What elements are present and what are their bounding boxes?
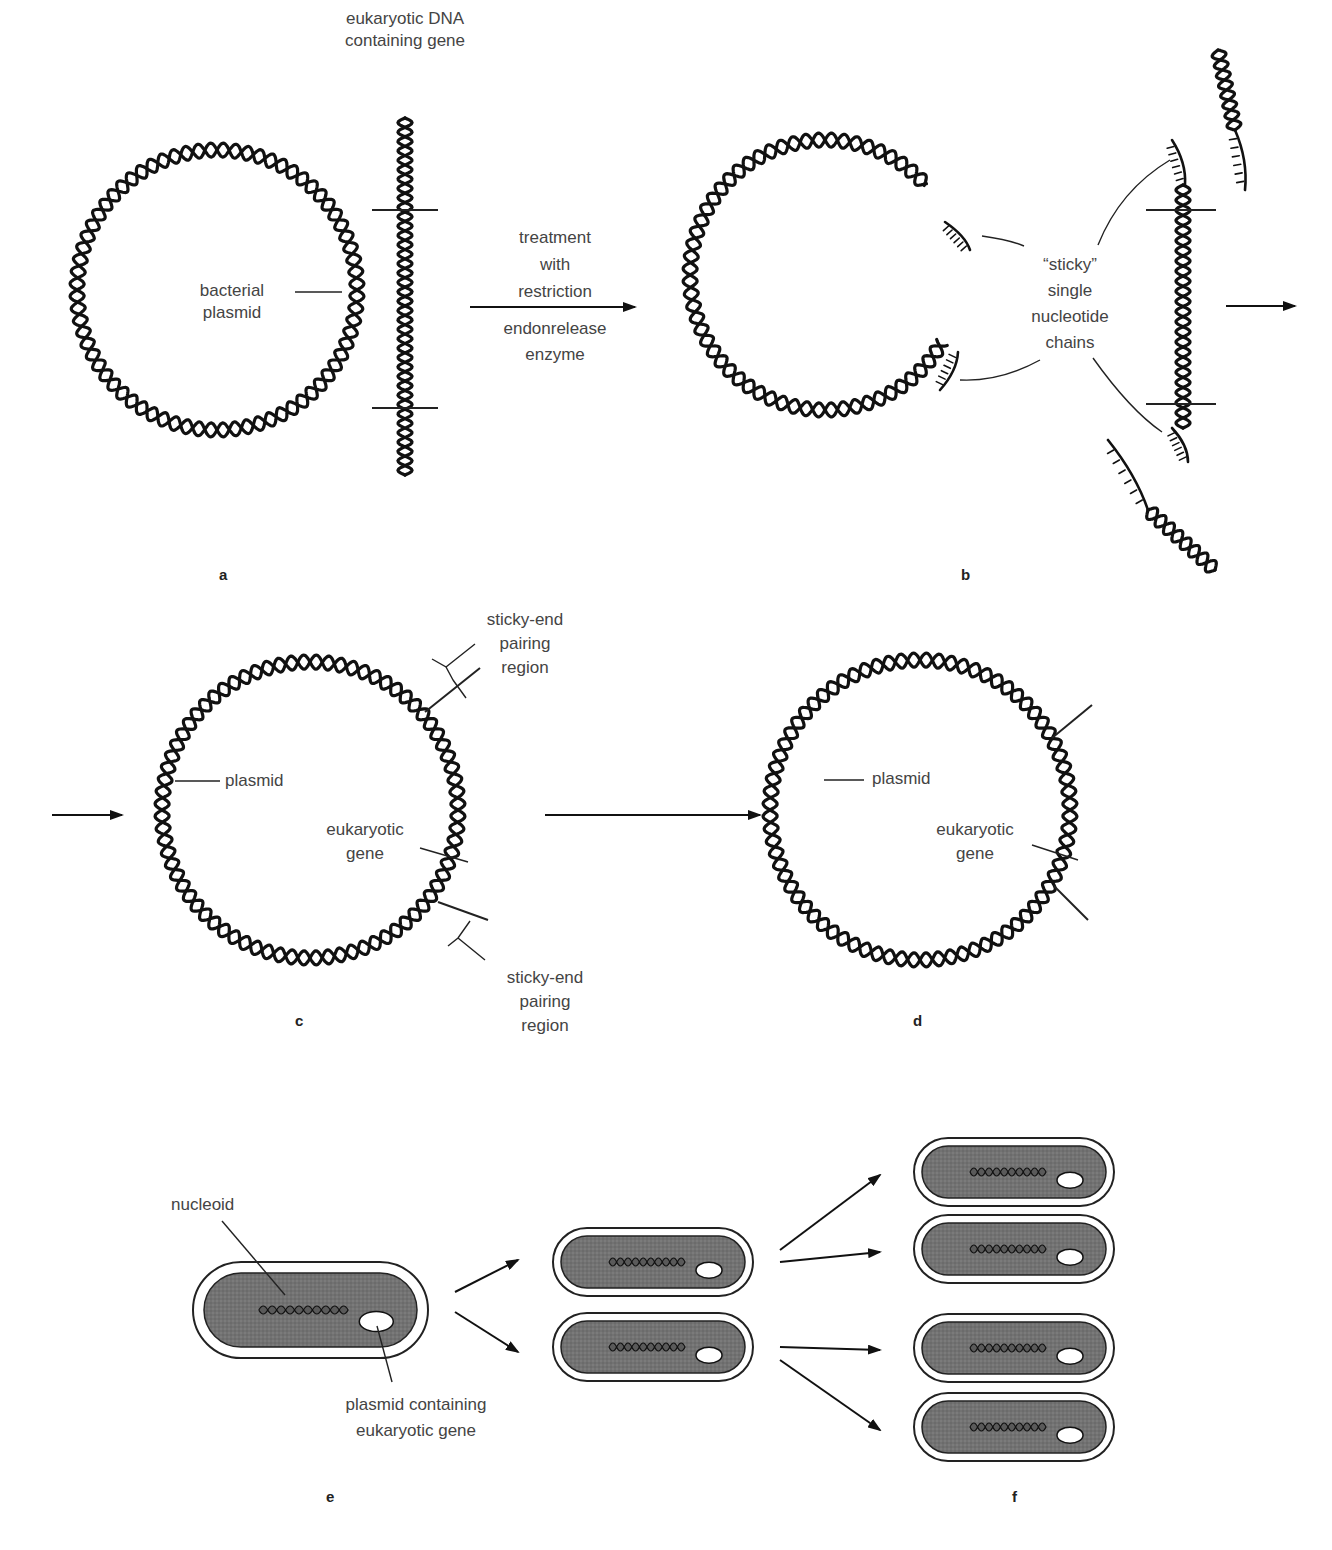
plasmid-icon <box>696 1347 722 1363</box>
cell-e <box>193 1262 428 1358</box>
plasmid-icon <box>359 1312 393 1332</box>
eukaryotic-dna-helix-a <box>398 118 412 475</box>
dna-helices <box>70 50 1245 967</box>
panel-letter-c: c <box>295 1012 303 1029</box>
panel-letter-f: f <box>1012 1488 1017 1505</box>
label-plasmid-containing-gene: plasmid containing eukaryotic gene <box>316 1392 516 1444</box>
brace-c-bottom <box>448 921 485 960</box>
plasmid-icon <box>1057 1172 1083 1188</box>
label-treatment: treatment with restriction <box>480 224 630 305</box>
arrow-f2 <box>780 1252 880 1262</box>
panel-letter-a: a <box>219 566 227 583</box>
discarded-piece-bottom <box>1147 508 1217 572</box>
figure-canvas <box>0 0 1332 1550</box>
label-nucleoid: nucleoid <box>171 1194 234 1216</box>
arrow-e-down <box>455 1312 518 1352</box>
label-plasmid-c: plasmid <box>225 770 284 792</box>
leader-sticky-3 <box>960 360 1040 380</box>
label-sticky-end-top: sticky-end pairing region <box>470 608 580 680</box>
plasmid-helix-b <box>683 133 947 417</box>
arrow-f4 <box>780 1360 880 1430</box>
plasmid-helix-c <box>155 655 465 965</box>
gene-fragment-helix-b <box>1176 185 1190 428</box>
sticky-end-discard-top <box>1230 130 1246 190</box>
sticky-end-discard-bottom <box>1108 440 1148 510</box>
plasmid-helix-d <box>763 653 1077 967</box>
cell-f2 <box>914 1215 1114 1283</box>
cell-e1 <box>553 1228 753 1296</box>
label-bacterial-plasmid: bacterial plasmid <box>182 280 282 324</box>
arrow-e-up <box>455 1260 518 1292</box>
cut-d-bottom <box>1054 886 1088 920</box>
panel-letter-b: b <box>961 566 970 583</box>
plasmid-icon <box>1057 1427 1083 1443</box>
sticky-end-gene-top <box>1167 140 1185 185</box>
panel-letter-e: e <box>326 1488 334 1505</box>
cell-f4 <box>914 1393 1114 1461</box>
plasmid-icon <box>1057 1249 1083 1265</box>
discarded-piece-top <box>1212 50 1241 130</box>
sticky-end-gene-bottom <box>1168 428 1188 462</box>
label-eukaryotic-gene-c: eukaryotic gene <box>310 818 420 866</box>
cell-f1 <box>914 1138 1114 1206</box>
plasmid-icon <box>1057 1348 1083 1364</box>
cut-c-bottom <box>438 902 488 920</box>
cut-d-top <box>1052 705 1092 738</box>
label-plasmid-d: plasmid <box>872 768 931 790</box>
arrow-f1 <box>780 1175 880 1250</box>
label-sticky-chains: “sticky” single nucleotide chains <box>1010 252 1130 356</box>
label-eukaryotic-dna: eukaryotic DNA containing gene <box>330 8 480 52</box>
sticky-end-plasmid-top <box>943 222 970 251</box>
label-sticky-end-bottom: sticky-end pairing region <box>490 966 600 1038</box>
leader-sticky-1 <box>982 236 1024 246</box>
arrow-f3 <box>780 1347 880 1350</box>
panel-letter-d: d <box>913 1012 922 1029</box>
cell-e2 <box>553 1313 753 1381</box>
leader-sticky-4 <box>1093 358 1162 432</box>
recombinant-dna-figure: eukaryotic DNA containing gene bacterial… <box>0 0 1332 1550</box>
plasmid-icon <box>696 1262 722 1278</box>
cell-f3 <box>914 1314 1114 1382</box>
label-enzyme: endonrelease enzyme <box>470 316 640 368</box>
label-eukaryotic-gene-d: eukaryotic gene <box>920 818 1030 866</box>
leader-sticky-2 <box>1098 160 1170 245</box>
